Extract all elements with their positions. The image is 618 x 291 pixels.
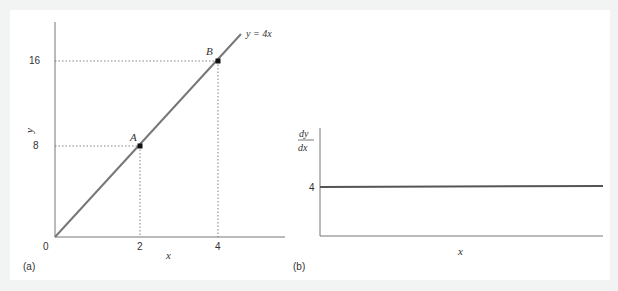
point-a-label: A — [129, 131, 137, 143]
chart-a: A B y = 4x 8 16 0 2 4 x y (a) — [23, 22, 285, 272]
x-axis-label-b: x — [457, 245, 463, 257]
line-dydx-4 — [320, 186, 603, 187]
y-tick-4: 4 — [309, 182, 315, 193]
line-label: y = 4x — [245, 28, 272, 39]
chart-b: dy dx 4 x (b) — [293, 128, 603, 272]
y-tick-8: 8 — [33, 140, 39, 151]
line-y-4x — [55, 34, 241, 237]
y-tick-16: 16 — [29, 55, 41, 66]
figure-svg: A B y = 4x 8 16 0 2 4 x y (a) dy dx 4 x … — [0, 0, 618, 291]
x-tick-4: 4 — [215, 241, 221, 252]
y-axis-label-a: y — [23, 128, 35, 134]
y-axis-label-b-den: dx — [298, 142, 308, 153]
x-tick-0: 0 — [43, 241, 49, 252]
point-a — [138, 144, 143, 149]
panel-label-a: (a) — [23, 261, 35, 272]
panel-label-b: (b) — [293, 261, 305, 272]
x-axis-label-a: x — [165, 249, 171, 261]
x-tick-2: 2 — [137, 241, 143, 252]
point-b-label: B — [206, 45, 213, 57]
y-axis-label-b-num: dy — [299, 128, 309, 139]
point-b — [216, 59, 221, 64]
